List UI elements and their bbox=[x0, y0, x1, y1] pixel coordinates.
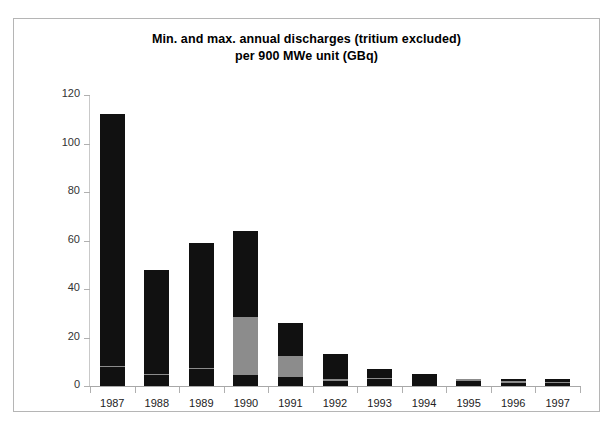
bar-segment-max bbox=[233, 231, 258, 317]
y-tick-label: 60 bbox=[68, 233, 80, 245]
bar-segment-min bbox=[323, 381, 348, 386]
bar-segment-mid bbox=[323, 379, 348, 380]
bar-segment-min bbox=[412, 378, 437, 386]
bar-segment-max bbox=[189, 243, 214, 368]
bar-segment-min bbox=[233, 375, 258, 386]
y-tick-label: 20 bbox=[68, 330, 80, 342]
x-tick-mark bbox=[580, 387, 581, 393]
chart-frame: Min. and max. annual discharges (tritium… bbox=[13, 18, 600, 412]
y-axis-tick: 40 bbox=[14, 289, 90, 290]
plot-area bbox=[90, 95, 580, 386]
x-tick-mark bbox=[268, 387, 269, 393]
x-tick-mark bbox=[179, 387, 180, 393]
y-tick-label: 40 bbox=[68, 281, 80, 293]
y-axis-tick: 20 bbox=[14, 338, 90, 339]
x-axis-label: 1992 bbox=[313, 397, 358, 409]
x-tick-mark bbox=[402, 387, 403, 393]
x-axis-label: 1994 bbox=[402, 397, 447, 409]
bar-segment-max bbox=[545, 379, 570, 382]
bar-segment-min bbox=[501, 383, 526, 386]
x-axis-label: 1990 bbox=[224, 397, 269, 409]
chart-title-line-2: per 900 MWe unit (GBq) bbox=[14, 48, 599, 65]
bar-segment-min bbox=[189, 369, 214, 386]
bar-segment-min bbox=[545, 383, 570, 386]
x-axis-label: 1996 bbox=[491, 397, 536, 409]
chart-title-line-1: Min. and max. annual discharges (tritium… bbox=[152, 32, 461, 46]
bar-segment-mid bbox=[278, 356, 303, 377]
x-tick-mark bbox=[357, 387, 358, 393]
x-axis-label: 1991 bbox=[268, 397, 313, 409]
x-tick-mark bbox=[535, 387, 536, 393]
y-axis-tick: 100 bbox=[14, 144, 90, 145]
bar-segment-max bbox=[278, 323, 303, 356]
y-axis-tick: 120 bbox=[14, 95, 90, 96]
x-axis-label: 1997 bbox=[535, 397, 580, 409]
y-tick-label: 80 bbox=[68, 184, 80, 196]
bar-segment-min bbox=[456, 381, 481, 386]
bar-segment-mid bbox=[144, 374, 169, 375]
bar-segment-min bbox=[144, 375, 169, 386]
bar-segment-mid bbox=[545, 382, 570, 383]
y-tick-label: 0 bbox=[74, 378, 80, 390]
x-axis-label: 1995 bbox=[446, 397, 491, 409]
x-axis-label: 1993 bbox=[357, 397, 402, 409]
bar-segment-max bbox=[144, 270, 169, 374]
y-tick-label: 120 bbox=[62, 87, 80, 99]
bar-segment-max bbox=[412, 374, 437, 377]
x-tick-mark bbox=[90, 387, 91, 393]
bar-segment-mid bbox=[501, 381, 526, 382]
y-axis-tick: 60 bbox=[14, 241, 90, 242]
bar-segment-max bbox=[367, 369, 392, 378]
x-tick-mark bbox=[135, 387, 136, 393]
bar-segment-min bbox=[278, 377, 303, 386]
y-tick-label: 100 bbox=[62, 136, 80, 148]
bar-segment-mid bbox=[456, 379, 481, 381]
x-axis-label: 1987 bbox=[90, 397, 135, 409]
x-tick-mark bbox=[224, 387, 225, 393]
bar-segment-mid bbox=[367, 378, 392, 379]
x-axis-label: 1988 bbox=[135, 397, 180, 409]
bar-segment-mid bbox=[233, 317, 258, 375]
x-tick-mark bbox=[491, 387, 492, 393]
x-tick-mark bbox=[313, 387, 314, 393]
x-tick-mark bbox=[446, 387, 447, 393]
bar-segment-max bbox=[100, 114, 125, 365]
bar-segment-max bbox=[323, 354, 348, 379]
x-axis-line bbox=[89, 386, 581, 387]
bar-segment-max bbox=[501, 379, 526, 382]
y-axis-tick: 0 bbox=[14, 386, 90, 387]
y-axis-tick: 80 bbox=[14, 192, 90, 193]
bar-segment-min bbox=[367, 379, 392, 386]
bar-segment-mid bbox=[189, 368, 214, 369]
x-axis-label: 1989 bbox=[179, 397, 224, 409]
bar-segment-mid bbox=[100, 366, 125, 367]
bar-segment-min bbox=[100, 367, 125, 386]
chart-title: Min. and max. annual discharges (tritium… bbox=[14, 31, 599, 65]
